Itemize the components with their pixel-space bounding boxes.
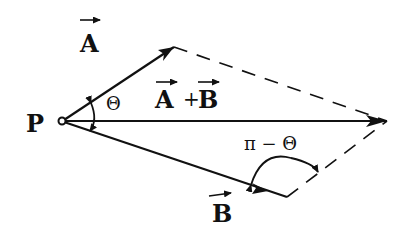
label-a-text: A <box>79 29 99 58</box>
label-b: B <box>209 193 232 228</box>
label-sum: A + B <box>154 82 219 114</box>
label-b-text: B <box>212 199 232 228</box>
theta-label: Θ <box>106 93 121 114</box>
label-sum-b: B <box>198 85 218 114</box>
vector-a-arrowhead <box>158 47 174 61</box>
vector-diagram: P A Θ A + B π − Θ B <box>0 0 411 237</box>
angle-theta-arc <box>90 103 94 131</box>
supplementary-angle-label: π − Θ <box>244 133 297 154</box>
origin-label: P <box>26 109 44 138</box>
origin-point <box>59 118 66 125</box>
label-a: A <box>79 20 100 58</box>
label-b-vector-arrow <box>209 193 231 196</box>
vector-b-arrowhead <box>252 183 268 194</box>
dashed-side-from-b <box>287 121 387 197</box>
label-sum-a: A <box>154 85 174 114</box>
